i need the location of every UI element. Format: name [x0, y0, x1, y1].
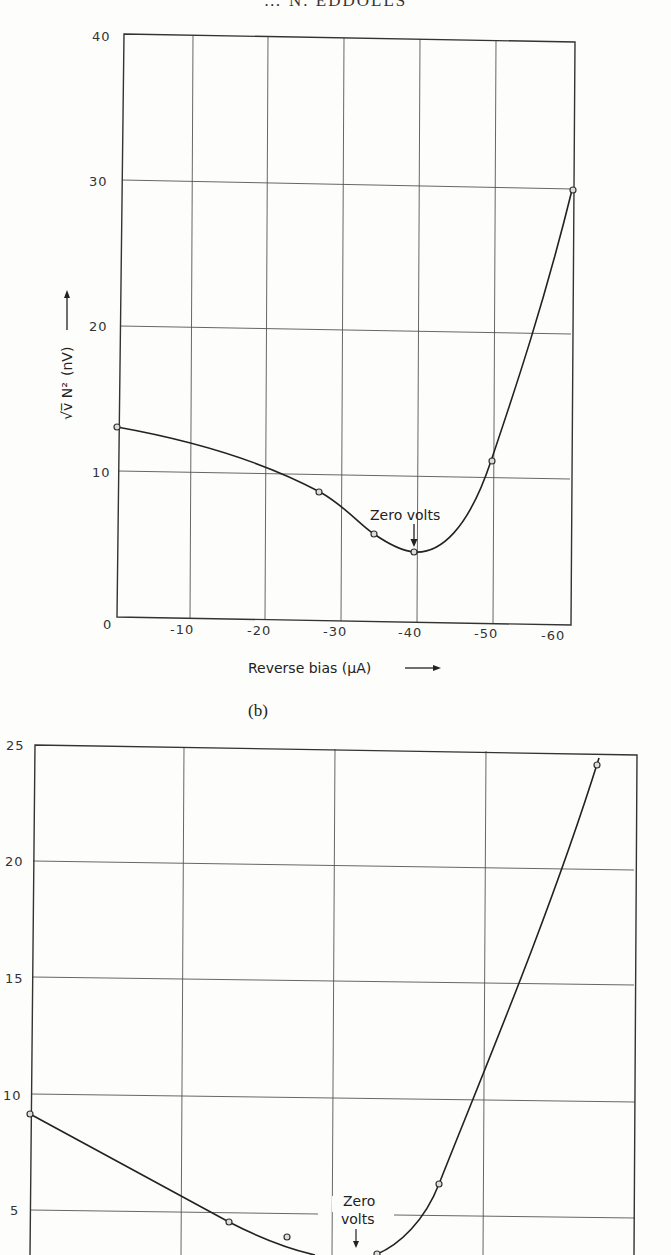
data-point — [226, 1219, 232, 1225]
y-tick-10: 10 — [3, 1088, 22, 1103]
chart-c-curve — [30, 1114, 315, 1255]
chart-c-gridlines — [30, 747, 635, 1255]
y-tick-15: 15 — [5, 971, 24, 986]
y-tick-25: 25 — [6, 738, 25, 753]
chart-c-points — [27, 762, 600, 1255]
zero-annotation: Zero — [343, 1193, 375, 1209]
volts-annotation: volts — [341, 1211, 375, 1227]
chart-c: Zero volts 25 20 15 10 5 — [0, 0, 671, 1255]
data-point — [436, 1181, 442, 1187]
chart-c-curve-right — [375, 758, 599, 1255]
down-arrow-icon — [353, 1229, 359, 1248]
y-tick-20: 20 — [5, 854, 24, 869]
data-point-outlier — [284, 1234, 290, 1240]
data-point — [594, 762, 600, 768]
y-tick-5: 5 — [10, 1203, 19, 1218]
data-point — [374, 1251, 380, 1255]
data-point — [27, 1111, 33, 1117]
